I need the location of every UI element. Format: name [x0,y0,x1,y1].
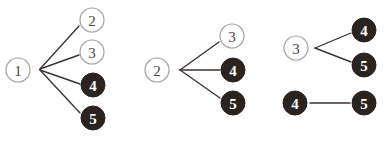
node-label: 5 [360,96,368,112]
node-label: 4 [89,78,97,94]
node-label: 3 [88,45,96,61]
graph-edge [315,33,351,48]
node-label: 2 [153,63,161,79]
node-label: 2 [88,13,96,29]
graph-node: 4 [352,18,376,42]
node-label: 5 [229,96,237,112]
node-label: 5 [89,111,97,127]
node-label: 3 [228,29,236,45]
graph-node: 5 [352,91,376,115]
node-label: 3 [292,41,300,57]
node-label: 1 [14,63,22,79]
graph-node: 3 [284,36,308,60]
graph-node: 5 [352,53,376,77]
graph-node: 5 [81,106,105,130]
figure-canvas: 12345234534545 [0,0,386,141]
graph-node: 4 [221,58,245,82]
graph-edge [315,48,351,62]
graph-node: 4 [283,91,307,115]
graph-node: 3 [220,24,244,48]
graph-diagram: 12345234534545 [0,0,386,141]
graph-edge [180,42,219,70]
graph-node: 5 [221,91,245,115]
graph-node: 2 [145,58,169,82]
nodes-layer: 12345234534545 [6,8,376,130]
graph-node: 1 [6,58,30,82]
graph-edge [180,70,220,98]
graph-node: 3 [80,40,104,64]
node-label: 4 [229,63,237,79]
node-label: 4 [291,96,299,112]
graph-node: 2 [80,8,104,32]
node-label: 4 [360,23,368,39]
node-label: 5 [360,58,368,74]
graph-node: 4 [81,73,105,97]
